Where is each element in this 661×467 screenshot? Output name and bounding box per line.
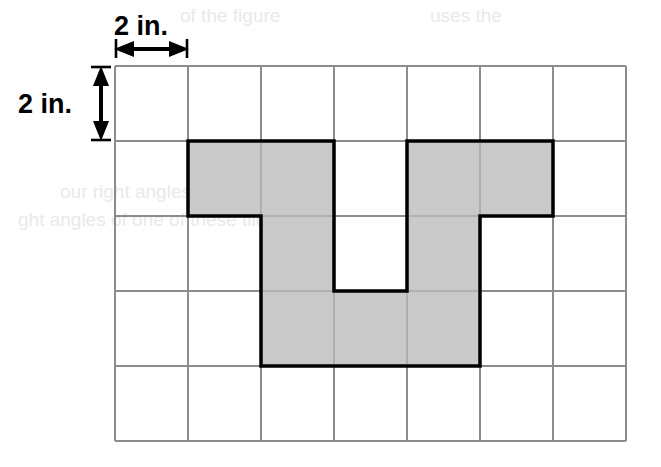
horizontal-dimension-label: 2 in. — [114, 11, 168, 41]
geometry-figure-container: of the figure uses the our right angles … — [0, 0, 661, 467]
grid-lines — [115, 66, 626, 441]
vertical-dimension-label: 2 in. — [18, 89, 72, 119]
ghost-text-line-3: our right angles — [60, 181, 191, 202]
vertical-arrowhead-bottom — [93, 121, 109, 141]
vertical-arrowhead-top — [93, 66, 109, 86]
horizontal-dimension-group: 2 in. — [114, 11, 189, 58]
ghost-text-line-2: uses the — [430, 5, 502, 26]
shaded-u-polygon — [188, 141, 553, 366]
geometry-figure-svg: of the figure uses the our right angles … — [0, 0, 661, 467]
ghost-text-line-1: of the figure — [180, 5, 280, 26]
vertical-dimension-group: 2 in. — [18, 66, 111, 141]
